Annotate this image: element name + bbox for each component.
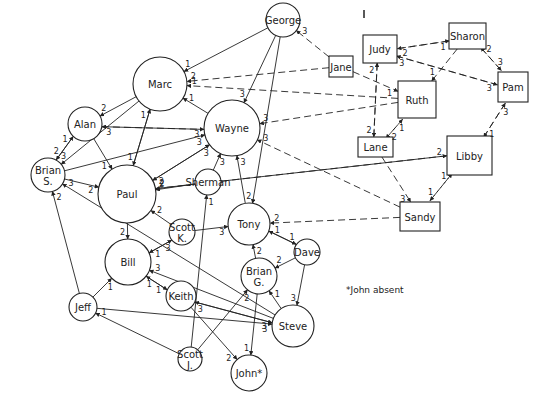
node-sandy: Sandy [400, 202, 440, 231]
edge-weight: 3 [240, 158, 245, 167]
node-label: Scott [177, 349, 203, 360]
edge-weight: 3 [69, 179, 74, 188]
node-jane: Jane [329, 56, 353, 77]
node-marc: Marc [133, 57, 187, 111]
node-ruth: Ruth [398, 81, 436, 118]
node-label: Ruth [405, 95, 428, 106]
edge-weight: 1 [128, 153, 133, 162]
node-sharon: Sharon [449, 23, 486, 49]
edge-weight: 1 [244, 344, 249, 353]
edge-pam-to-libby [484, 103, 506, 137]
node-label-line2: J. [186, 360, 193, 371]
footnote-john-absent: *John absent [346, 285, 404, 295]
node-tony: Tony [228, 203, 270, 245]
edge-weight: 3 [399, 59, 404, 68]
edge-sharon-to-ruth [432, 49, 458, 81]
node-john: John* [231, 355, 267, 391]
edge-weight: 3 [487, 84, 492, 93]
node-jeff: Jeff [69, 293, 97, 321]
edge-weight: 2 [159, 179, 164, 188]
node-label: Bill [120, 257, 135, 268]
edge-weight: 1 [102, 162, 107, 171]
edge-weight: 1 [185, 60, 190, 69]
sociogram-diagram: GeorgeMarcAlanWayneBrianS.PaulShermanTon… [0, 0, 558, 418]
edge-weight: 3 [220, 158, 225, 167]
edge-weight: 1 [147, 280, 152, 289]
edge-weight: 2 [257, 247, 262, 256]
edge-weight: 2 [274, 214, 279, 223]
node-label: Jeff [74, 302, 92, 313]
node-wayne: Wayne [204, 100, 260, 156]
edge-weight: 1 [141, 111, 146, 120]
edge-weight: 2 [369, 66, 374, 75]
edge-weight: 2 [101, 104, 106, 113]
edge-weight: 1 [430, 68, 435, 77]
edge-weight: 1 [387, 89, 392, 98]
edge-weight: 2 [277, 256, 282, 265]
edge-weight: 2 [120, 228, 125, 237]
edge-brian_g-to-tony [253, 245, 256, 259]
node-label: Dave [294, 247, 320, 258]
node-label: Paul [117, 189, 138, 200]
edge-weight: 3 [498, 58, 503, 67]
edge-weight: 1 [63, 135, 68, 144]
node-dave: Dave [294, 239, 320, 265]
node-brian-s: BrianS. [31, 158, 65, 192]
edge-weight: 3 [262, 325, 267, 334]
edge-weight: 1 [290, 233, 295, 242]
node-label: George [265, 15, 301, 26]
edge-weight: 3 [197, 138, 202, 147]
edge-sandy-to-tony [270, 217, 400, 223]
node-label: Sherman [186, 177, 231, 188]
node-steve: Steve [272, 305, 314, 347]
node-label-line2: G. [254, 277, 265, 288]
edge-weight: 1 [192, 77, 197, 86]
node-label: Tony [237, 219, 261, 230]
node-brian-g: BrianG. [241, 258, 277, 294]
nodes-layer: GeorgeMarcAlanWayneBrianS.PaulShermanTon… [31, 3, 528, 391]
edge-weight: 3 [204, 149, 209, 158]
edge-jeff-to-brian_s [52, 191, 79, 293]
edge-weight: 1 [275, 226, 280, 235]
node-label: Lane [363, 142, 387, 153]
edge-weight: 2 [402, 49, 407, 58]
node-libby: Libby [447, 136, 492, 175]
edge-dave-to-steve [297, 265, 305, 306]
edge-wayne-to-alan [102, 127, 204, 130]
edge-jane-to-marc [187, 68, 329, 82]
edge-weight: 1 [399, 124, 404, 133]
edge-weight: 2 [367, 126, 372, 135]
node-label: Scott [169, 222, 195, 233]
edge-weight: 1 [156, 286, 161, 295]
edge-weight: 2 [56, 193, 61, 202]
node-keith: Keith [166, 281, 196, 311]
edge-weight: 3 [165, 244, 170, 253]
edge-weight: 1 [489, 130, 494, 139]
edge-weight: 2 [54, 147, 59, 156]
edge-weight: 2 [226, 354, 231, 363]
edge-weight: 3 [155, 264, 160, 273]
edge-ruth-to-marc [187, 86, 398, 99]
edge-weight: 2 [246, 192, 251, 201]
node-label: Wayne [215, 123, 249, 134]
edge-weight: 1 [441, 172, 446, 181]
edge-ruth-to-wayne [260, 102, 398, 123]
edge-george-to-marc [184, 28, 268, 72]
edge-weight: 2 [244, 294, 249, 303]
edge-weight: 1 [102, 308, 107, 317]
edge-weight: 3 [503, 108, 508, 117]
node-label: Libby [456, 151, 483, 162]
edge-weight: 3 [302, 27, 307, 36]
node-label-line2: S. [43, 176, 53, 187]
node-bill: Bill [105, 239, 151, 285]
node-label: Judy [368, 44, 391, 55]
edge-weight: 1 [108, 283, 113, 292]
node-lane: Lane [358, 137, 393, 157]
edge-weight: 3 [291, 294, 296, 303]
edge-weight: 3 [240, 90, 245, 99]
node-label: Sharon [450, 31, 485, 42]
node-paul: Paul [98, 165, 156, 223]
edge-weight: 1 [441, 43, 446, 52]
edge-weight: 2 [392, 133, 397, 142]
node-alan: Alan [68, 107, 102, 141]
